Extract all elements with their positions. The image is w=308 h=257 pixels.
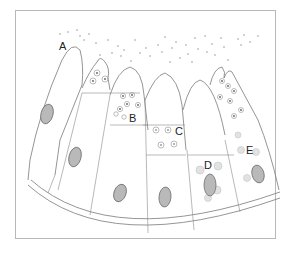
label-d: D bbox=[204, 159, 212, 171]
label-c: C bbox=[175, 125, 183, 137]
label-e: E bbox=[246, 144, 253, 156]
nucleus bbox=[204, 174, 216, 196]
label-b: B bbox=[129, 112, 136, 124]
cell-diagram: A B C D E bbox=[0, 0, 308, 257]
label-a: A bbox=[59, 40, 67, 52]
